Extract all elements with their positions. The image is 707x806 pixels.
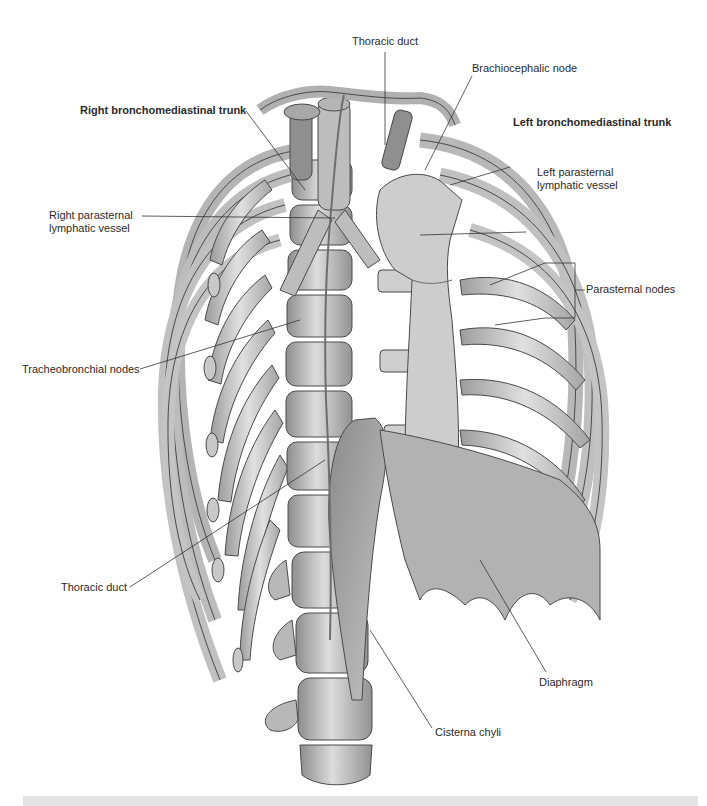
label-tracheobronchial-nodes: Tracheobronchial nodes <box>22 363 140 376</box>
footer-bar <box>23 796 698 806</box>
label-diaphragm: Diaphragm <box>539 676 593 689</box>
label-left-bronchomediastinal-trunk: Left bronchomediastinal trunk <box>513 116 671 129</box>
label-left-parasternal-vessel: Left parasternal lymphatic vessel <box>537 166 618 192</box>
label-thoracic-duct-bottom: Thoracic duct <box>61 581 127 594</box>
label-cisterna-chyli: Cisterna chyli <box>435 726 501 739</box>
label-left-parasternal-line2: lymphatic vessel <box>537 179 618 192</box>
label-parasternal-nodes: Parasternal nodes <box>586 283 675 296</box>
label-right-parasternal-line1: Right parasternal <box>49 209 133 222</box>
label-thoracic-duct-top: Thoracic duct <box>352 35 418 48</box>
label-right-parasternal-vessel: Right parasternal lymphatic vessel <box>49 209 133 235</box>
label-brachiocephalic-node: Brachiocephalic node <box>472 62 577 75</box>
label-right-bronchomediastinal-trunk: Right bronchomediastinal trunk <box>80 104 246 117</box>
label-right-parasternal-line2: lymphatic vessel <box>49 222 133 235</box>
label-left-parasternal-line1: Left parasternal <box>537 166 618 179</box>
